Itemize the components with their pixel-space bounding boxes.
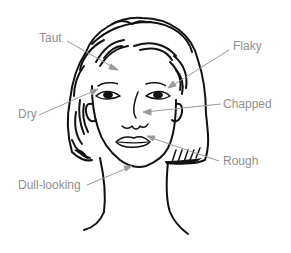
arrowhead-dry [90, 89, 98, 95]
label-taut: Taut [39, 32, 62, 44]
label-dry: Dry [18, 108, 37, 120]
label-flaky: Flaky [233, 40, 262, 52]
callout-line-flaky [170, 50, 229, 87]
label-chapped: Chapped [223, 98, 272, 110]
label-dull-looking: Dull-looking [18, 179, 81, 191]
face-diagram: Taut Flaky Dry Chapped Rough Dull-lookin… [0, 0, 291, 253]
callout-line-dull [87, 167, 130, 185]
arrowhead-chapped [143, 109, 151, 115]
arrowhead-dull [124, 166, 132, 171]
neck-left [84, 158, 105, 230]
label-rough: Rough [223, 155, 258, 167]
arrowhead-flaky [168, 81, 176, 88]
arrowhead-taut [109, 64, 118, 70]
neck-right [167, 162, 188, 234]
